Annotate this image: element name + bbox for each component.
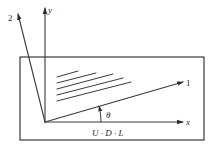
composite-ply-diagram: y x 1 2 θ U · D · L: [0, 0, 218, 149]
theta-arc: [99, 106, 101, 122]
fiber-line: [57, 82, 131, 101]
fiber-line: [57, 73, 96, 83]
theta-label: θ: [106, 110, 111, 120]
x-axis-label: x: [185, 117, 190, 127]
axis-2: [18, 14, 45, 122]
axis-2-label: 2: [8, 13, 13, 23]
fiber-line: [57, 71, 78, 77]
axis-1: [45, 82, 183, 122]
fiber-hatching: [57, 71, 131, 101]
y-axis-label: y: [47, 5, 52, 15]
axis-1-label: 1: [186, 78, 191, 88]
ply-layup-label: U · D · L: [92, 128, 124, 138]
